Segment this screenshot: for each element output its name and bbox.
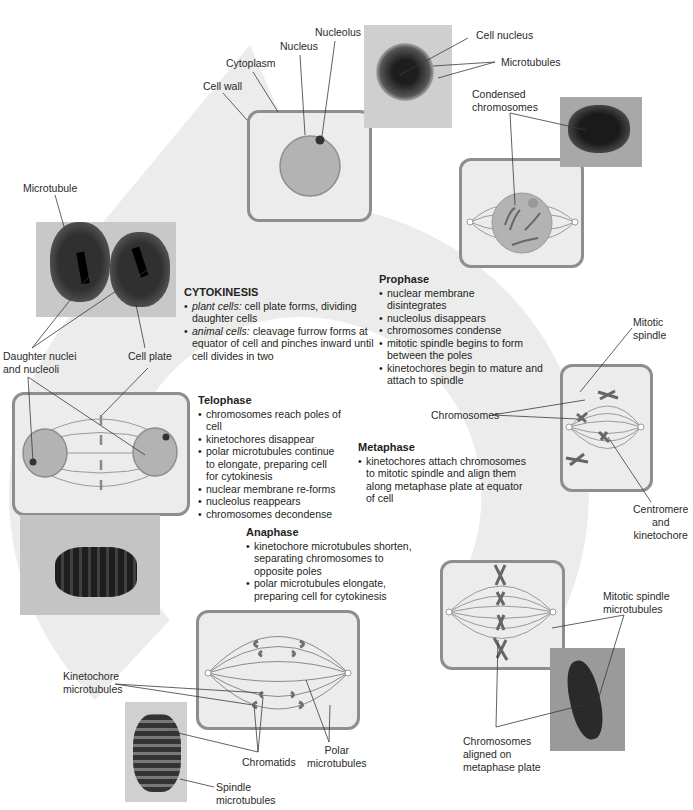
cytokinesis-bullet: plant cells: cell plate forms, dividing …: [184, 300, 374, 325]
cytokinesis-title: CYTOKINESIS: [184, 286, 374, 299]
anaphase-description: Anaphase kinetochore microtubules shorte…: [246, 526, 421, 602]
telophase-bullet: chromosomes reach poles of cell: [198, 408, 358, 433]
anaphase-bullet: polar microtubules elongate, preparing c…: [246, 577, 421, 602]
prophase-bullet: chromosomes condense: [379, 324, 544, 337]
telophase-bullet: nucleolus reappears: [198, 495, 358, 508]
telophase-title: Telophase: [198, 394, 358, 407]
cytokinesis-description: CYTOKINESIS plant cells: cell plate form…: [184, 286, 374, 362]
prophase-title: Prophase: [379, 273, 544, 286]
telophase-bullet: polar microtubules continue to elongate,…: [198, 445, 341, 483]
telophase-bullet: nuclear membrane re-forms: [198, 483, 358, 496]
anaphase-bullet: kinetochore microtubules shorten, separa…: [246, 540, 421, 578]
telophase-bullet: chromosomes decondense: [198, 508, 358, 521]
telophase-description: Telophase chromosomes reach poles of cel…: [198, 394, 358, 520]
cytokinesis-bullet: animal cells: cleavage furrow forms at e…: [184, 325, 374, 363]
prophase-bullet: nucleolus disappears: [379, 312, 544, 325]
metaphase-title: Metaphase: [358, 441, 533, 454]
telophase-bullet: kinetochores disappear: [198, 433, 358, 446]
metaphase-bullet: kinetochores attach chromosomes to mitot…: [358, 455, 533, 505]
prophase-bullet: nuclear membrane disintegrates: [379, 287, 497, 312]
prophase-bullet: mitotic spindle begins to form between t…: [379, 337, 544, 362]
metaphase-description: Metaphase kinetochores attach chromosome…: [358, 441, 533, 505]
prophase-description: Prophase nuclear membrane disintegrates …: [379, 273, 544, 387]
prophase-bullet: kinetochores begin to mature and attach …: [379, 362, 544, 387]
anaphase-title: Anaphase: [246, 526, 421, 539]
